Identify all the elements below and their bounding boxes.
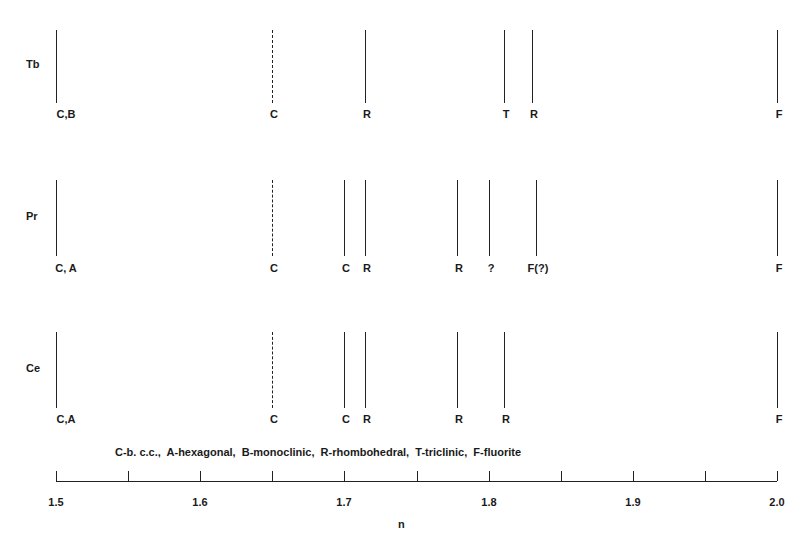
phase-diagram-chart: TbC,BCRTRFPrC, ACCRR?F(?)FCeC,ACCRRRFC-b… [0,0,808,545]
x-tick [272,471,273,481]
x-axis-label: n [398,518,405,530]
phase-line [504,332,505,408]
x-tick-label: 1.6 [192,496,207,508]
phase-line-label: C,B [57,108,76,120]
phase-line [489,180,490,256]
phase-line-label: C,A [57,413,76,425]
x-tick-label: 1.8 [481,496,496,508]
x-tick [561,471,562,481]
legend-text: C-b. c.c., A-hexagonal, B-monoclinic, R-… [115,446,521,458]
phase-line-label: R [363,413,371,425]
phase-line-label: R [455,262,463,274]
phase-line [457,180,458,256]
phase-line-label: R [363,262,371,274]
phase-line [532,30,533,103]
phase-line [272,332,273,408]
phase-line [344,180,345,256]
x-tick-label: 1.5 [48,496,63,508]
x-tick [56,471,57,481]
phase-line-label: R [455,413,463,425]
phase-line [365,332,366,408]
phase-line-label: ? [488,262,495,274]
phase-line [272,180,273,256]
phase-line-label: F(?) [528,262,549,274]
x-tick-label: 2.0 [769,496,784,508]
x-tick [417,471,418,481]
phase-line [457,332,458,408]
row-label-tb: Tb [26,58,39,70]
x-tick [705,471,706,481]
phase-line [56,332,57,408]
phase-line-label: F [776,262,783,274]
phase-line-label: C, A [55,262,77,274]
phase-line [56,180,57,256]
phase-line-label: C [342,413,350,425]
phase-line [536,180,537,256]
x-tick [128,471,129,481]
phase-line-label: F [776,108,783,120]
phase-line-label: R [363,108,371,120]
x-axis [56,481,777,482]
x-tick-label: 1.9 [625,496,640,508]
x-tick [200,471,201,481]
phase-line [777,30,778,103]
phase-line [365,180,366,256]
x-tick [344,471,345,481]
phase-line-label: C [270,262,278,274]
x-tick [489,471,490,481]
x-tick [633,471,634,481]
phase-line [504,30,505,103]
phase-line-label: C [342,262,350,274]
x-tick-label: 1.7 [336,496,351,508]
row-label-pr: Pr [26,210,38,222]
phase-line [365,30,366,103]
phase-line-label: F [776,413,783,425]
phase-line [777,332,778,408]
phase-line [272,30,273,103]
phase-line-label: C [270,413,278,425]
phase-line-label: C [270,108,278,120]
phase-line-label: T [503,108,510,120]
row-label-ce: Ce [26,362,40,374]
phase-line-label: R [530,108,538,120]
x-tick [777,471,778,481]
phase-line [344,332,345,408]
phase-line [777,180,778,256]
phase-line [56,30,57,103]
phase-line-label: R [502,413,510,425]
